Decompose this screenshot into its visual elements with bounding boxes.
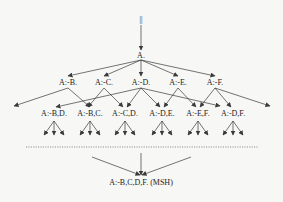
level2-node: A:-E,F. — [186, 109, 209, 118]
level1-node: A:-F. — [207, 78, 223, 87]
edge-level2-child — [125, 121, 135, 135]
edge-converge-bottom — [142, 157, 191, 175]
edge-level2-child — [54, 121, 64, 135]
level2-node: A:-D,F. — [221, 109, 245, 118]
edge-top-level1 — [68, 60, 141, 76]
edge-level1-level2 — [104, 88, 123, 107]
bottom-node-msh: A:-B,C,D,F. (MSH) — [109, 178, 173, 187]
level1-node: A:-B. — [59, 78, 77, 87]
level2-node: A:-B,D. — [41, 109, 67, 118]
edge-level1-level2 — [178, 88, 196, 107]
edge-level1-level2 — [141, 88, 160, 107]
level1-node: A:-D. — [132, 78, 150, 87]
edge-level1-level2 — [215, 88, 270, 106]
edge-level2-child — [44, 121, 54, 135]
level1-node: A:-E. — [169, 78, 187, 87]
edge-level2-child — [115, 121, 125, 135]
edge-level2-child — [233, 121, 243, 135]
edge-level2-child — [198, 121, 208, 135]
edge-level2-child — [223, 121, 233, 135]
edge-level1-level2 — [164, 88, 178, 107]
edge-top-level1 — [141, 60, 215, 76]
root-node: || — [139, 15, 142, 24]
level2-node: A:-C,D. — [112, 109, 138, 118]
edges — [14, 25, 270, 175]
edge-top-level1 — [104, 60, 141, 76]
level2-node: A:-B,C. — [77, 109, 102, 118]
top-node: A. — [137, 51, 145, 60]
edge-level1-level2 — [14, 88, 68, 106]
edge-level2-child — [162, 121, 172, 135]
edge-level1-level2 — [56, 88, 141, 107]
edge-level1-level2 — [88, 88, 104, 107]
edge-level2-child — [188, 121, 198, 135]
refinement-graph: || A. A:-B. A:-C. A:-D. A:-E. A:-F. A:-B… — [0, 0, 283, 202]
level1-node: A:-C. — [95, 78, 113, 87]
edge-level2-child — [80, 121, 90, 135]
edge-converge-bottom — [92, 157, 140, 175]
edge-top-level1 — [141, 60, 178, 76]
edge-level2-child — [90, 121, 100, 135]
edge-level2-child — [152, 121, 162, 135]
level2-node: A:-D,E. — [149, 109, 174, 118]
edge-level1-level2 — [68, 88, 90, 107]
